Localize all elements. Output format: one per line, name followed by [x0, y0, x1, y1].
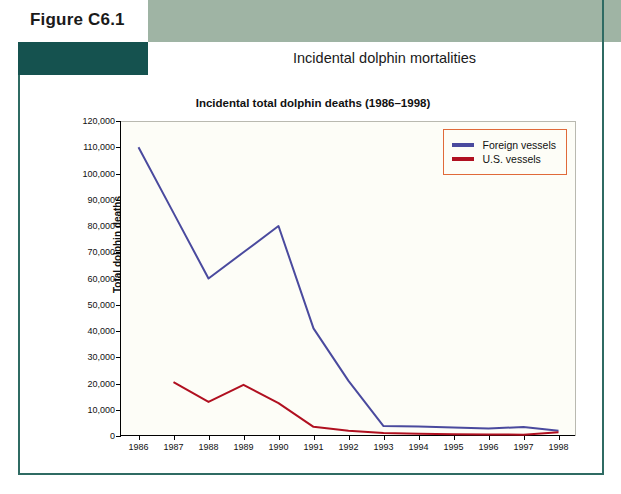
header-teal-block: [18, 42, 148, 75]
header-green-band: [148, 0, 621, 42]
plot-wrapper: Total dolphin deaths 010,00020,00030,000…: [120, 121, 575, 436]
x-tick-label: 1998: [548, 442, 568, 452]
y-tick-label: 90,000: [63, 195, 115, 205]
x-tick-label: 1996: [478, 442, 498, 452]
series-line: [174, 382, 559, 435]
x-tick-label: 1992: [338, 442, 358, 452]
y-tick-label: 40,000: [63, 326, 115, 336]
x-tick-label: 1989: [233, 442, 253, 452]
y-tick-mark: [116, 436, 121, 437]
x-tick-label: 1988: [198, 442, 218, 452]
legend-swatch-us: [452, 157, 474, 161]
plot-area: 010,00020,00030,00040,00050,00060,00070,…: [120, 121, 575, 436]
y-tick-label: 10,000: [63, 405, 115, 415]
x-tick-label: 1991: [303, 442, 323, 452]
y-tick-label: 60,000: [63, 274, 115, 284]
series-line: [139, 147, 559, 431]
figure-page: Figure C6.1 Incidental dolphin mortaliti…: [0, 0, 621, 494]
figure-label: Figure C6.1: [30, 10, 125, 30]
legend-item-foreign-vessels: Foreign vessels: [452, 139, 556, 151]
x-tick-label: 1995: [443, 442, 463, 452]
page-title: Incidental dolphin mortalities: [148, 42, 621, 75]
y-tick-label: 70,000: [63, 247, 115, 257]
y-tick-label: 20,000: [63, 379, 115, 389]
x-tick-label: 1997: [513, 442, 533, 452]
legend-swatch-foreign: [452, 143, 474, 147]
chart-legend: Foreign vessels U.S. vessels: [443, 129, 567, 175]
y-tick-label: 100,000: [63, 169, 115, 179]
chart-panel: Incidental total dolphin deaths (1986–19…: [18, 75, 604, 475]
legend-label-foreign: Foreign vessels: [482, 139, 556, 151]
y-tick-label: 0: [63, 431, 115, 441]
y-tick-label: 120,000: [63, 116, 115, 126]
legend-item-us-vessels: U.S. vessels: [452, 153, 556, 165]
x-tick-label: 1994: [408, 442, 428, 452]
chart-title: Incidental total dolphin deaths (1986–19…: [20, 97, 606, 109]
y-tick-label: 30,000: [63, 352, 115, 362]
x-tick-label: 1990: [268, 442, 288, 452]
y-tick-label: 80,000: [63, 221, 115, 231]
x-tick-label: 1986: [128, 442, 148, 452]
y-tick-label: 110,000: [63, 142, 115, 152]
y-tick-label: 50,000: [63, 300, 115, 310]
x-tick-label: 1987: [163, 442, 183, 452]
x-tick-label: 1993: [373, 442, 393, 452]
legend-label-us: U.S. vessels: [482, 153, 540, 165]
